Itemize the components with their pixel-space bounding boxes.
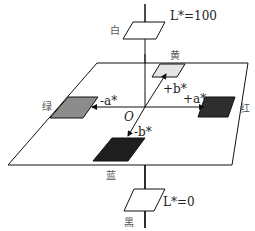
black-label: 黑 bbox=[124, 217, 134, 228]
l-0-label: L*=0 bbox=[163, 195, 195, 209]
pos-b-label: +b* bbox=[163, 82, 187, 96]
l-100-label: L*=100 bbox=[170, 9, 217, 23]
neg-a-label: -a* bbox=[100, 94, 117, 108]
lab-color-space-diagram: L*=100 L*=0 O -a* +a* +b* -b* 白 黄 绿 红 蓝 … bbox=[0, 0, 255, 231]
origin-label: O bbox=[124, 110, 134, 124]
white-label: 白 bbox=[110, 24, 120, 36]
blue-label: 蓝 bbox=[106, 170, 116, 181]
green-label: 绿 bbox=[42, 100, 52, 112]
red-label: 红 bbox=[240, 102, 250, 114]
black-plane bbox=[124, 189, 165, 211]
neg-b-label: -b* bbox=[134, 125, 152, 139]
white-plane bbox=[123, 22, 165, 39]
yellow-label: 黄 bbox=[170, 49, 180, 61]
